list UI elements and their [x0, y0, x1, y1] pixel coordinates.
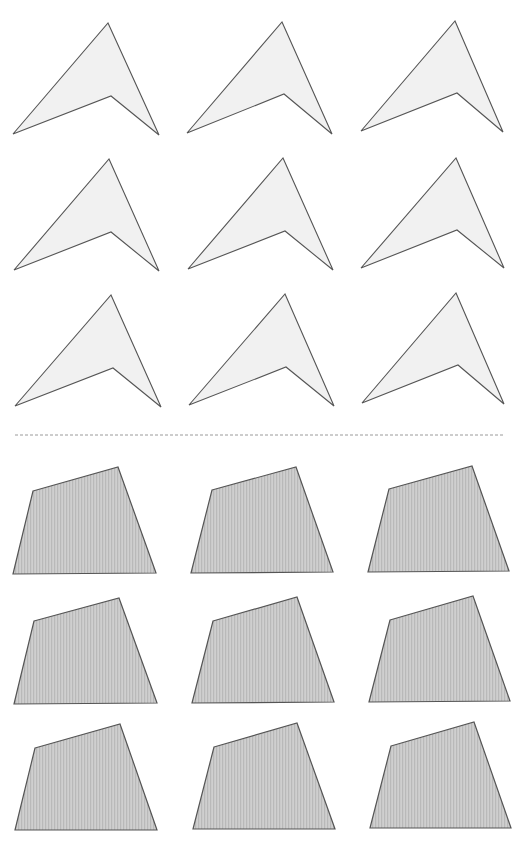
arrowhead-shape-r1-c1 [13, 23, 159, 135]
arrowhead-shape-r1-c2 [187, 22, 332, 134]
quadrilateral-shape-r1-c1 [13, 467, 156, 574]
quadrilateral-shape-r1-c3 [368, 466, 509, 572]
quadrilateral-shape-r2-c2 [192, 597, 334, 703]
arrowhead-shapes-grid [13, 21, 504, 407]
quadrilateral-shape-r3-c2 [193, 723, 335, 829]
quadrilateral-shape-r2-c1 [14, 598, 157, 704]
quadrilateral-shape-r2-c3 [369, 596, 510, 702]
quadrilateral-shapes-grid [13, 466, 511, 830]
quadrilateral-shape-r1-c2 [191, 467, 333, 573]
quadrilateral-shape-r3-c1 [15, 724, 157, 830]
worksheet-canvas [0, 0, 524, 842]
arrowhead-shape-r3-c3 [362, 293, 504, 404]
arrowhead-shape-r2-c1 [14, 159, 159, 271]
arrowhead-shape-r3-c1 [15, 295, 161, 407]
arrowhead-shape-r2-c2 [188, 158, 333, 270]
arrowhead-shape-r1-c3 [361, 21, 503, 132]
arrowhead-shape-r2-c3 [361, 158, 504, 268]
arrowhead-shape-r3-c2 [189, 294, 334, 406]
quadrilateral-shape-r3-c3 [370, 722, 511, 828]
